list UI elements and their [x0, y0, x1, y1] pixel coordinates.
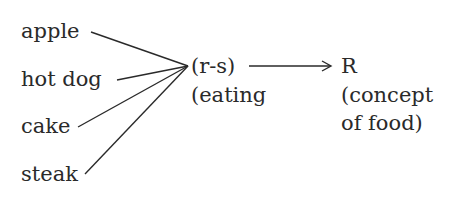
stimulus-steak: steak: [21, 162, 78, 186]
response-label: R: [341, 54, 357, 78]
stimulus-apple: apple: [21, 19, 80, 43]
response-description-2: of food): [341, 111, 423, 135]
stimulus-cake: cake: [21, 114, 70, 138]
line-apple: [91, 32, 188, 66]
mediator-label: (r-s): [191, 54, 235, 78]
response-description-1: (concept: [341, 83, 433, 107]
stimulus-hot-dog: hot dog: [21, 67, 102, 91]
mediator-description: (eating: [191, 83, 266, 107]
